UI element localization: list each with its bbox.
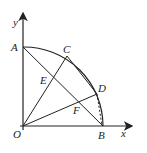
label-e: E (39, 74, 47, 86)
label-o: O (13, 128, 21, 140)
label-b: B (98, 129, 105, 141)
segment-od (23, 94, 97, 126)
label-a: A (10, 41, 18, 53)
label-y: y (12, 16, 18, 28)
segment-cd (67, 56, 97, 94)
label-x: x (120, 127, 126, 139)
geometry-diagram: y x A C E D F O B (0, 0, 147, 153)
segment-oc (23, 56, 67, 126)
label-d: D (97, 82, 106, 94)
label-f: F (72, 104, 80, 116)
label-c: C (63, 43, 71, 55)
